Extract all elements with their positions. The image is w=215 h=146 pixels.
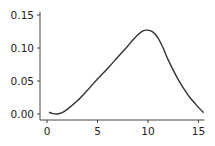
y-tick-label: 0.00: [11, 108, 34, 120]
x-tick-label: 5: [94, 125, 101, 137]
x-tick-label: 10: [141, 125, 154, 137]
y-tick-label: 0.10: [11, 42, 34, 54]
series-line: [49, 30, 204, 114]
x-tick-label: 0: [44, 125, 51, 137]
y-tick-label: 0.15: [11, 9, 34, 21]
x-axis: 051015: [40, 120, 205, 137]
y-tick-label: 0.05: [11, 75, 34, 87]
plot-area: [49, 30, 204, 114]
y-axis: 0.000.050.100.15: [11, 9, 40, 121]
line-chart: 0.000.050.100.15 051015: [0, 0, 215, 146]
x-tick-label: 15: [192, 125, 205, 137]
